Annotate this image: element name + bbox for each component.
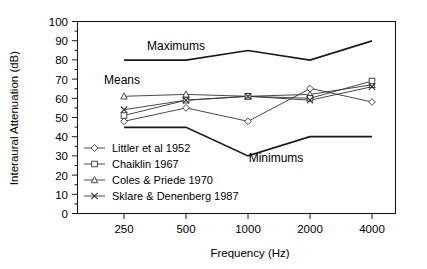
x-tick-label: 250 [114,223,133,235]
chart-svg: 100 90 80 70 60 50 40 30 20 10 0 250 500… [0,0,427,269]
annotation-maximums: Maximums [147,39,205,53]
y-axis-title: Interaural Attenuation (dB) [8,51,20,185]
x-axis-title: Frequency (Hz) [210,247,289,259]
y-tick-label: 60 [55,93,68,105]
y-tick-label: 100 [49,16,68,28]
y-tick-label: 90 [55,35,68,47]
y-tick-labels: 100 90 80 70 60 50 40 30 20 10 0 [49,16,68,220]
y-tick-label: 70 [55,74,68,86]
y-axis-ticks [72,22,78,214]
x-axis-ticks [124,214,372,220]
chart-legend: Littler et al 1952 Chaiklin 1967 Coles &… [84,142,239,202]
y-tick-label: 50 [55,112,68,124]
legend-label: Littler et al 1952 [112,142,190,154]
y-tick-label: 0 [62,208,68,220]
x-tick-label: 1000 [235,223,261,235]
y-tick-label: 30 [55,150,68,162]
legend-label: Sklare & Denenberg 1987 [112,190,239,202]
legend-label: Coles & Priede 1970 [112,174,213,186]
legend-label: Chaiklin 1967 [112,158,179,170]
legend-item-sklare-denenberg: Sklare & Denenberg 1987 [84,190,239,202]
x-tick-label: 2000 [297,223,323,235]
legend-item-coles-priede: Coles & Priede 1970 [84,174,213,186]
y-tick-label: 40 [55,131,68,143]
annotation-minimums: Minimums [249,151,304,165]
series-markers-littler [121,85,376,124]
annotation-means: Means [104,73,140,87]
chart-figure: 100 90 80 70 60 50 40 30 20 10 0 250 500… [0,0,427,269]
x-tick-labels: 250 500 1000 2000 4000 [114,223,384,235]
y-tick-label: 20 [55,170,68,182]
series-markers-chaiklin [121,78,375,118]
y-tick-label: 80 [55,54,68,66]
legend-item-chaiklin: Chaiklin 1967 [84,158,179,170]
x-tick-label: 4000 [359,223,385,235]
legend-item-littler: Littler et al 1952 [84,142,190,154]
x-tick-label: 500 [176,223,195,235]
y-tick-label: 10 [55,189,68,201]
